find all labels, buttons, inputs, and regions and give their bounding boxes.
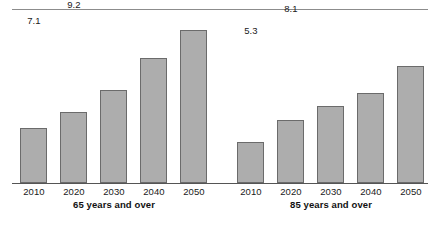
bar-slot: 16.2 2040 (134, 0, 174, 228)
bar-value-label: 8.1 (271, 3, 311, 14)
bar-slot: 5.3 2010 (231, 0, 271, 228)
group-label-65-years-and-over: 65 years and over (14, 199, 214, 211)
bar-slot: 19.8 2050 (174, 0, 214, 228)
category-axis-baseline (12, 183, 428, 184)
bar-slot: 12.0 2030 (94, 0, 134, 228)
tick-label: 2020 (271, 186, 311, 198)
bar-group-65-years-and-over: 7.1 2010 9.2 2020 12.0 2030 16.2 2040 19 (14, 0, 214, 228)
bar[interactable] (277, 120, 304, 183)
bar[interactable] (357, 93, 384, 183)
bar-slot: 9.9 2030 (311, 0, 351, 228)
bar-slot: 9.2 2020 (54, 0, 94, 228)
bar[interactable] (180, 30, 207, 183)
bar[interactable] (317, 106, 344, 183)
tick-label: 2050 (391, 186, 431, 198)
tick-label: 2050 (174, 186, 214, 198)
bar-slot: 8.1 2020 (271, 0, 311, 228)
bar[interactable] (237, 142, 264, 183)
bar[interactable] (100, 90, 127, 183)
plot-area: 7.1 2010 9.2 2020 12.0 2030 16.2 2040 19 (0, 0, 438, 228)
tick-label: 2010 (231, 186, 271, 198)
tick-label: 2030 (311, 186, 351, 198)
bar-chart-figure: 7.1 2010 9.2 2020 12.0 2030 16.2 2040 19 (0, 0, 438, 228)
tick-label: 2030 (94, 186, 134, 198)
bar-value-label: 9.2 (54, 0, 94, 10)
bar[interactable] (397, 66, 424, 183)
bar-group-85-years-and-over: 5.3 2010 8.1 2020 9.9 2030 11.6 2040 15. (231, 0, 431, 228)
bar[interactable] (60, 112, 87, 183)
tick-label: 2020 (54, 186, 94, 198)
bar-slot: 7.1 2010 (14, 0, 54, 228)
bar-slot: 11.6 2040 (351, 0, 391, 228)
bar-value-label: 7.1 (14, 15, 54, 26)
tick-label: 2010 (14, 186, 54, 198)
bar-value-label: 5.3 (231, 25, 271, 36)
bar-slot: 15.1 2050 (391, 0, 431, 228)
group-label-85-years-and-over: 85 years and over (231, 199, 431, 211)
bar[interactable] (140, 58, 167, 183)
bar[interactable] (20, 128, 47, 183)
tick-label: 2040 (351, 186, 391, 198)
tick-label: 2040 (134, 186, 174, 198)
